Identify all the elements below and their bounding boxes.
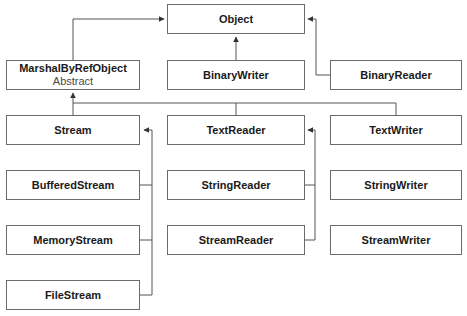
node-label: BufferedStream — [32, 179, 115, 192]
node-object: Object — [167, 4, 305, 34]
node-filestream: FileStream — [6, 280, 140, 310]
node-stringreader: StringReader — [167, 170, 305, 200]
node-streamreader: StreamReader — [167, 225, 305, 255]
node-streamwriter: StreamWriter — [330, 225, 462, 255]
node-label: StreamReader — [199, 234, 274, 247]
node-binarywriter: BinaryWriter — [167, 60, 305, 90]
node-label: Object — [219, 13, 253, 26]
node-textwriter: TextWriter — [330, 115, 462, 145]
node-label: Stream — [54, 124, 91, 137]
node-stream: Stream — [6, 115, 140, 145]
node-label: MemoryStream — [33, 234, 112, 247]
node-label: BinaryReader — [360, 69, 432, 82]
node-sublabel: Abstract — [53, 75, 93, 88]
node-marshalbyrefobject: MarshalByRefObject Abstract — [6, 60, 140, 90]
node-bufferedstream: BufferedStream — [6, 170, 140, 200]
node-label: StringWriter — [364, 179, 427, 192]
node-stringwriter: StringWriter — [330, 170, 462, 200]
node-label: TextWriter — [369, 124, 422, 137]
node-binaryreader: BinaryReader — [330, 60, 462, 90]
node-label: MarshalByRefObject — [19, 62, 127, 75]
connector-lines — [0, 0, 467, 316]
node-label: StreamWriter — [362, 234, 431, 247]
node-label: BinaryWriter — [203, 69, 269, 82]
node-label: TextReader — [206, 124, 265, 137]
node-label: FileStream — [45, 289, 101, 302]
node-label: StringReader — [201, 179, 270, 192]
node-textreader: TextReader — [167, 115, 305, 145]
node-memorystream: MemoryStream — [6, 225, 140, 255]
